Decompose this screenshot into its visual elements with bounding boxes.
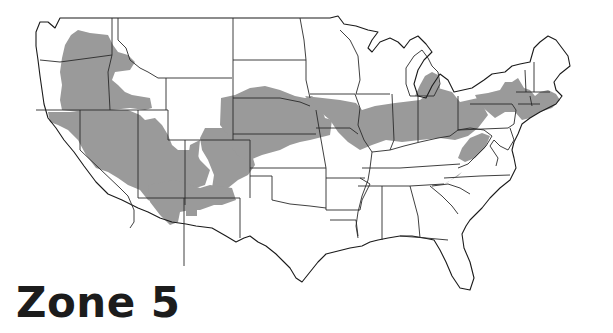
border-wi (340, 30, 360, 94)
border-la-ms (330, 220, 358, 236)
border-mn-west (300, 18, 310, 98)
border-al-ga (410, 186, 420, 238)
border-ar-la (326, 178, 370, 210)
border-ga-sc (430, 186, 458, 214)
zone-5-regions (48, 30, 560, 225)
zone-region-utah-pocket (188, 140, 200, 160)
zone-region-nm-pocket (186, 201, 197, 216)
zone-region-northwest (60, 30, 152, 112)
border-vt-nh (525, 62, 534, 92)
border-va-nc (444, 175, 510, 178)
border-nj-de-md (490, 128, 514, 166)
map-title: Zone 5 (16, 282, 181, 324)
zone-region-midwest (305, 88, 488, 150)
zone-region-northeast (475, 78, 560, 120)
border-ca-az (128, 196, 134, 228)
border-ky-tn (362, 164, 460, 168)
border-ga-fl (400, 236, 448, 240)
border-ok-tx (250, 176, 326, 208)
zone-region-plains-north (220, 86, 332, 160)
border-tn-south (358, 184, 444, 186)
